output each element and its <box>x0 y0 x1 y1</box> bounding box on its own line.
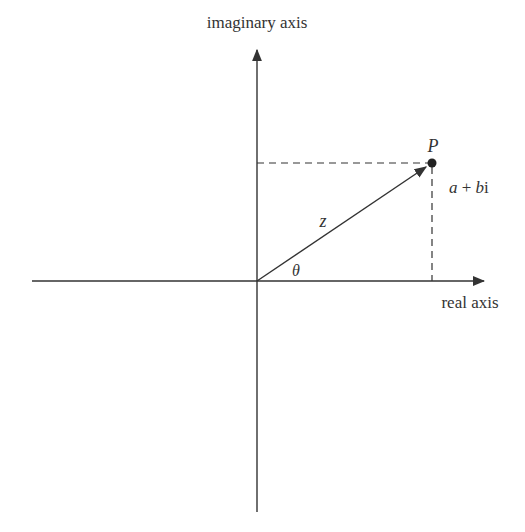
complex-b: b <box>476 178 485 197</box>
argand-diagram: imaginary axis real axis P a + bi z θ <box>0 0 525 532</box>
complex-a: a <box>449 178 458 197</box>
real-axis-label: real axis <box>441 293 498 312</box>
point-p-dot <box>428 159 437 168</box>
imaginary-axis-label: imaginary axis <box>207 13 308 32</box>
complex-i: i <box>484 178 489 197</box>
angle-theta-label: θ <box>292 262 300 279</box>
complex-number-label: a + bi <box>449 178 489 197</box>
point-p-label: P <box>427 136 439 156</box>
modulus-z-label: z <box>318 211 326 231</box>
complex-plus: + <box>458 178 476 197</box>
vector-z <box>257 167 426 281</box>
